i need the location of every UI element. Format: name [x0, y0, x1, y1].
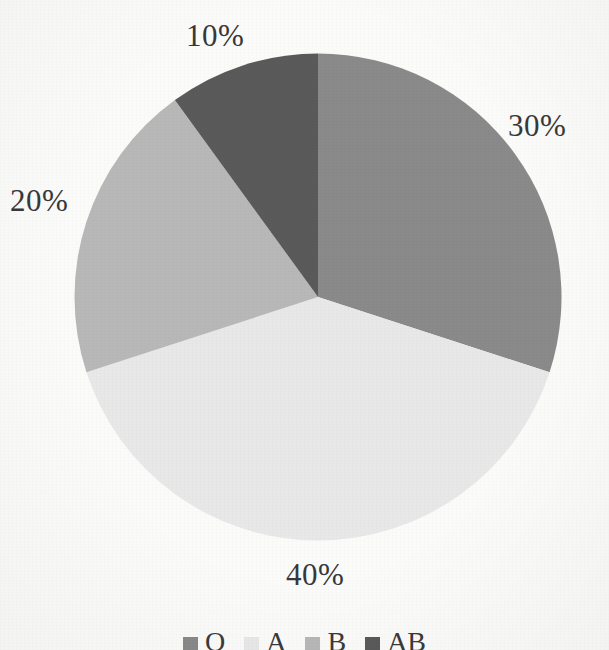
legend-label-ab: AB [387, 628, 426, 650]
legend-item-ab[interactable]: AB [365, 628, 426, 650]
data-label-ab: 10% [186, 20, 244, 51]
chart-legend: O A B AB [0, 628, 609, 650]
pie-slices [74, 54, 561, 541]
legend-label-b: B [327, 628, 346, 650]
legend-swatch-a-icon [244, 637, 259, 650]
legend-item-b[interactable]: B [305, 628, 346, 650]
data-label-o: 30% [508, 110, 566, 141]
legend-swatch-b-icon [305, 637, 320, 650]
pie-chart-svg [74, 53, 562, 541]
legend-label-a: A [266, 628, 286, 650]
legend-label-o: O [205, 628, 225, 650]
legend-item-o[interactable]: O [183, 628, 225, 650]
legend-item-a[interactable]: A [244, 628, 286, 650]
data-label-a: 40% [286, 559, 344, 590]
legend-swatch-ab-icon [365, 637, 380, 650]
pie-chart-figure: 10% 30% 20% 40% O A B AB [0, 0, 609, 650]
legend-swatch-o-icon [183, 637, 198, 650]
pie-chart [74, 53, 562, 541]
data-label-b: 20% [10, 185, 68, 216]
